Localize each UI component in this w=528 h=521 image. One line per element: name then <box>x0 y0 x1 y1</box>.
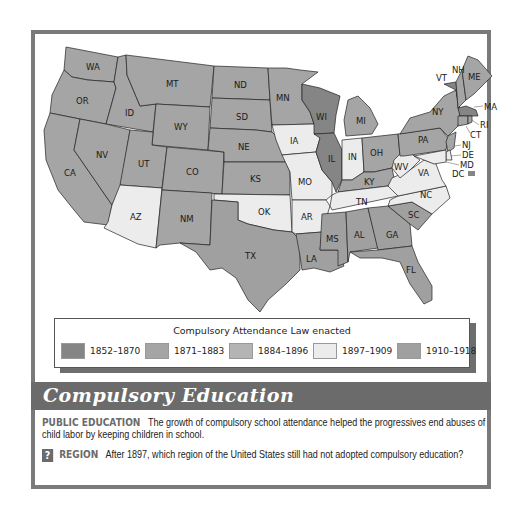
label-co: CO <box>186 167 199 177</box>
legend-item-1884-1896: 1884–1896 <box>229 343 313 359</box>
label-pa: PA <box>418 135 429 145</box>
label-wy: WY <box>174 122 188 132</box>
label-wa: WA <box>86 62 100 72</box>
label-nv: NV <box>96 150 108 160</box>
label-mt: MT <box>166 79 179 89</box>
label-tn: TN <box>355 197 368 207</box>
label-in: IN <box>348 152 357 162</box>
label-id: ID <box>125 108 135 118</box>
legend-item-1852-1870: 1852–1870 <box>61 343 145 359</box>
label-ar: AR <box>301 212 313 222</box>
label-vt: VT <box>436 73 448 83</box>
label-oh: OH <box>370 148 383 158</box>
label-or: OR <box>76 96 89 106</box>
label-ut: UT <box>138 159 150 169</box>
label-me: ME <box>468 72 481 82</box>
legend-swatch <box>313 343 337 359</box>
state-ny <box>400 90 460 136</box>
dc-swatch <box>468 171 475 176</box>
label-dc: DC <box>452 169 465 179</box>
label-mi: MI <box>356 116 366 126</box>
label-fl: FL <box>406 265 416 275</box>
caption-box: PUBLIC EDUCATION The growth of compulsor… <box>31 410 491 489</box>
legend-label: 1910–1918 <box>426 346 476 356</box>
legend-label: 1852–1870 <box>90 346 140 356</box>
question-icon: ? <box>42 449 53 462</box>
label-de: DE <box>462 150 474 160</box>
legend-swatch <box>145 343 169 359</box>
public-education-paragraph: PUBLIC EDUCATION The growth of compulsor… <box>42 416 489 440</box>
map-legend: Compulsory Attendance Law enacted 1852–1… <box>54 318 470 368</box>
us-map: WA OR CA ID NV MT WY UT AZ CO NM ND SD N… <box>0 0 528 330</box>
label-ky: KY <box>364 177 375 187</box>
legend-item-1897-1909: 1897–1909 <box>313 343 397 359</box>
label-nh: NH <box>452 65 465 75</box>
label-ks: KS <box>250 174 261 184</box>
public-education-keyword: PUBLIC EDUCATION <box>42 416 140 428</box>
label-nj: NJ <box>462 140 471 150</box>
label-ma: MA <box>484 102 497 112</box>
state-ct <box>458 116 468 126</box>
legend-label: 1897–1909 <box>342 346 392 356</box>
label-nd: ND <box>234 80 247 90</box>
label-ne: NE <box>238 142 250 152</box>
label-mn: MN <box>276 93 290 103</box>
legend-title: Compulsory Attendance Law enacted <box>55 325 469 336</box>
legend-item-1910-1918: 1910–1918 <box>397 343 481 359</box>
label-sd: SD <box>236 112 248 122</box>
legend-label: 1871–1883 <box>174 346 224 356</box>
label-va: VA <box>418 168 429 178</box>
label-tx: TX <box>244 251 256 261</box>
label-ny: NY <box>432 107 444 117</box>
map-title: Compulsory Education <box>43 384 294 406</box>
state-fl <box>350 246 432 304</box>
label-la: LA <box>306 254 317 264</box>
label-ca: CA <box>64 168 76 178</box>
label-al: AL <box>354 230 365 240</box>
label-nc: NC <box>420 190 432 200</box>
label-sc: SC <box>408 210 419 220</box>
label-wi: WI <box>316 112 327 122</box>
legend-swatch <box>229 343 253 359</box>
label-ct: CT <box>470 130 482 140</box>
label-nm: NM <box>180 214 194 224</box>
title-banner: Compulsory Education <box>31 382 491 410</box>
legend-swatch <box>397 343 421 359</box>
label-ms: MS <box>326 234 339 244</box>
label-wv: WV <box>394 162 408 172</box>
state-de <box>446 150 452 160</box>
state-ri <box>468 116 472 124</box>
state-ma <box>458 106 478 116</box>
label-ga: GA <box>386 230 399 240</box>
region-question-paragraph: ? REGION After 1897, which region of the… <box>42 448 489 462</box>
legend-items: 1852–1870 1871–1883 1884–1896 1897–1909 … <box>61 343 481 359</box>
label-ri: RI <box>480 120 488 130</box>
label-ia: IA <box>290 136 299 146</box>
legend-swatch <box>61 343 85 359</box>
region-question-text: After 1897, which region of the United S… <box>105 448 463 460</box>
label-az: AZ <box>130 212 142 222</box>
region-keyword: REGION <box>59 448 98 460</box>
label-mo: MO <box>298 177 312 187</box>
label-ok: OK <box>258 207 271 217</box>
legend-item-1871-1883: 1871–1883 <box>145 343 229 359</box>
label-il: IL <box>328 154 336 164</box>
legend-label: 1884–1896 <box>258 346 308 356</box>
